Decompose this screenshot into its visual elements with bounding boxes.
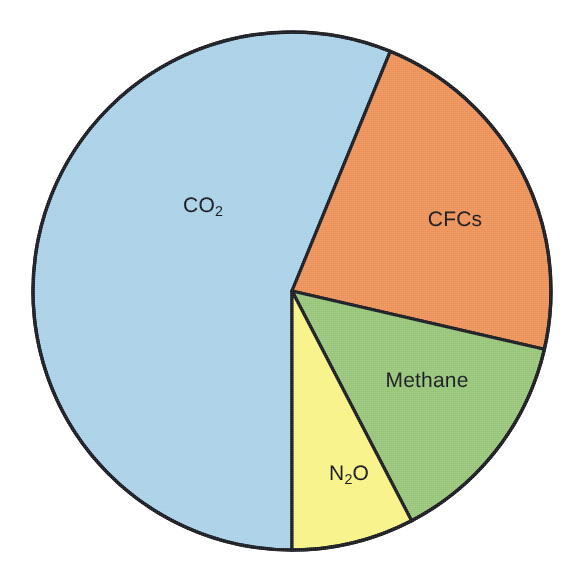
- pie-slices-group: [33, 32, 551, 550]
- pie-chart-figure: CO2 CFCs Methane N2O: [0, 0, 577, 577]
- pie-chart-canvas: [0, 0, 577, 577]
